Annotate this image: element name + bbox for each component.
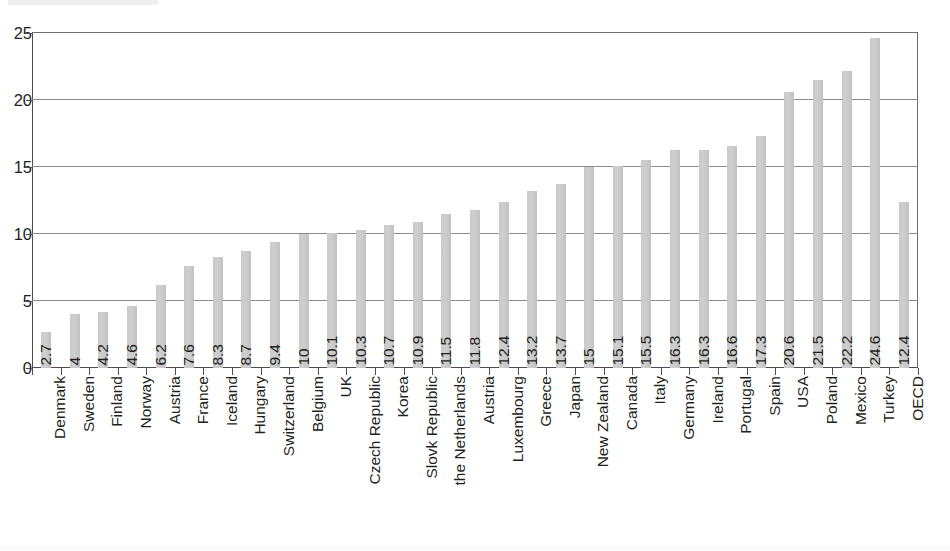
bar-value-label: 15.1 — [610, 335, 626, 365]
x-tick-mark — [261, 368, 262, 375]
category-label: Iceland — [224, 376, 240, 426]
x-tick-mark — [546, 368, 547, 375]
category-label: Mexico — [853, 376, 869, 425]
bar-value-label: 15.5 — [639, 335, 655, 365]
category-label: Belgium — [310, 376, 326, 432]
x-tick-mark — [89, 368, 90, 375]
bar-value-label: 12.4 — [896, 335, 912, 365]
bar-value-label: 10 — [296, 348, 312, 365]
x-tick-mark — [232, 368, 233, 375]
x-tick-mark — [747, 368, 748, 375]
x-tick-mark — [203, 368, 204, 375]
category-label: Slovk Republic — [424, 376, 440, 479]
category-label: Greece — [538, 376, 554, 427]
x-tick-mark — [175, 368, 176, 375]
x-tick-mark — [918, 368, 919, 375]
scan-artifact — [8, 0, 158, 5]
category-label: Norway — [138, 376, 154, 429]
x-tick-mark — [146, 368, 147, 375]
y-axis: 0510152025 — [0, 33, 32, 369]
category-label: Austria — [167, 376, 183, 424]
x-tick-mark — [346, 368, 347, 375]
bar: 21.5 — [813, 80, 823, 368]
category-label: Denmark — [52, 376, 68, 439]
category-label: Poland — [824, 376, 840, 424]
bar-value-label: 24.6 — [867, 335, 883, 365]
bar-value-label: 16.3 — [696, 335, 712, 365]
bar-value-label: 13.7 — [553, 335, 569, 365]
bar: 15 — [584, 167, 594, 368]
bar-value-label: 21.5 — [810, 335, 826, 365]
bar-value-label: 12.4 — [496, 335, 512, 365]
category-label: Austria — [481, 376, 497, 424]
bar-value-label: 17.3 — [753, 335, 769, 365]
bar: 17.3 — [756, 136, 766, 368]
x-tick-mark — [61, 368, 62, 375]
x-tick-mark — [632, 368, 633, 375]
x-tick-mark — [689, 368, 690, 375]
bar: 6.2 — [156, 285, 166, 368]
bar: 16.3 — [670, 150, 680, 368]
bar-value-label: 15 — [582, 348, 598, 365]
bar: 11.8 — [470, 210, 480, 368]
x-tick-mark — [32, 368, 33, 375]
bar: 7.6 — [184, 266, 194, 368]
category-label: Korea — [395, 376, 411, 417]
bar-value-label: 7.6 — [181, 344, 197, 365]
category-label: Spain — [767, 376, 783, 416]
category-label: the Netherlands — [452, 376, 468, 485]
bar: 16.3 — [699, 150, 709, 368]
x-axis-labels: DenmarkSwedenFinlandNorwayAustriaFranceI… — [32, 376, 919, 551]
x-tick-mark — [461, 368, 462, 375]
bar-value-label: 6.2 — [153, 344, 169, 365]
bar: 8.7 — [241, 251, 251, 368]
bar-value-label: 16.6 — [724, 335, 740, 365]
bar: 12.4 — [499, 202, 509, 368]
bar-value-label: 13.2 — [524, 335, 540, 365]
bar-value-label: 4.2 — [96, 344, 112, 365]
bar-value-label: 20.6 — [782, 335, 798, 365]
category-label: Czech Republic — [367, 376, 383, 485]
bar: 2.7 — [41, 332, 51, 368]
category-label: Portugal — [738, 376, 754, 434]
bar: 11.5 — [441, 214, 451, 368]
x-tick-mark — [489, 368, 490, 375]
bar: 12.4 — [899, 202, 909, 368]
x-tick-mark — [804, 368, 805, 375]
category-label: OECD — [910, 376, 926, 421]
bar-value-label: 10.7 — [382, 335, 398, 365]
x-tick-mark — [432, 368, 433, 375]
category-label: Luxembourg — [510, 376, 526, 462]
bar-value-label: 8.3 — [210, 344, 226, 365]
bar: 13.2 — [527, 191, 537, 368]
x-tick-mark — [604, 368, 605, 375]
bar: 4.6 — [127, 306, 137, 368]
x-tick-mark — [718, 368, 719, 375]
y-axis-line — [32, 33, 33, 368]
category-label: Canada — [624, 376, 640, 430]
x-tick-mark — [861, 368, 862, 375]
bar-value-label: 4.6 — [124, 344, 140, 365]
x-tick-mark — [832, 368, 833, 375]
bar-value-label: 9.4 — [267, 344, 283, 365]
bar: 16.6 — [727, 146, 737, 368]
plot-area: 2.744.24.66.27.68.38.79.41010.110.310.71… — [32, 33, 918, 368]
x-tick-mark — [775, 368, 776, 375]
plot-right-border — [917, 33, 918, 368]
bar: 15.5 — [641, 160, 651, 368]
bar-chart: 0510152025 2.744.24.66.27.68.38.79.41010… — [0, 0, 950, 551]
bar: 10.7 — [384, 225, 394, 368]
bar: 24.6 — [870, 38, 880, 368]
category-label: Turkey — [881, 376, 897, 423]
category-label: Hungary — [252, 376, 268, 435]
bar: 20.6 — [784, 92, 794, 368]
bar: 22.2 — [842, 71, 852, 368]
bar: 10.9 — [413, 222, 423, 368]
category-label: Finland — [109, 376, 125, 427]
bar: 4.2 — [98, 312, 108, 368]
bar-value-label: 8.7 — [239, 344, 255, 365]
bar-value-label: 16.3 — [667, 335, 683, 365]
bar-value-label: 11.8 — [467, 336, 483, 365]
category-label: USA — [795, 376, 811, 408]
gridline-25 — [32, 32, 918, 33]
